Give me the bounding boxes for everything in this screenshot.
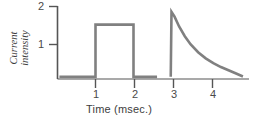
y-axis-title-line1: Current (8, 12, 19, 84)
trace-exponential-decay-pulse (171, 12, 243, 77)
x-tick-label-4: 4 (206, 89, 220, 100)
y-tick-label-2: 2 (30, 1, 44, 12)
y-axis-title: Current intensity (8, 12, 30, 84)
y-tick-label-1: 1 (30, 39, 44, 50)
x-tick-label-2: 2 (128, 89, 142, 100)
x-tick-label-1: 1 (89, 89, 103, 100)
chart-traces (59, 12, 243, 77)
y-axis-title-line2: intensity (19, 12, 30, 84)
chart-plot-area (0, 0, 255, 119)
trace-square-pulse (59, 25, 157, 77)
x-axis-title: Time (msec.) (86, 103, 152, 115)
current-intensity-chart: 2 1 1 2 3 4 Time (msec.) Current intensi… (0, 0, 255, 119)
x-tick-label-3: 3 (167, 89, 181, 100)
